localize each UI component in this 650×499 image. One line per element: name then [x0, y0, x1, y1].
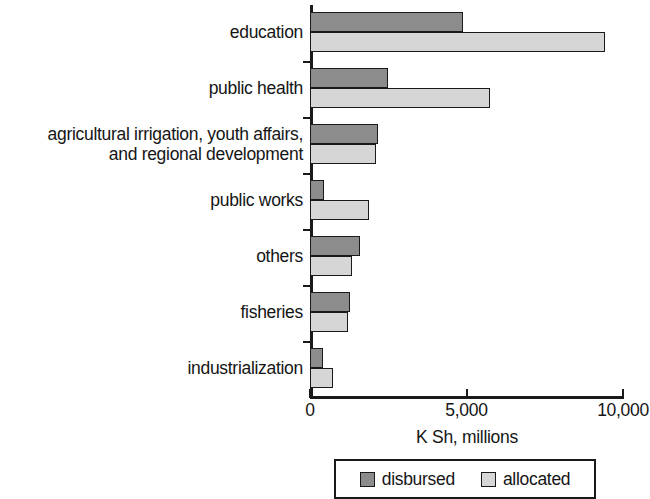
x-axis-tick: [622, 389, 624, 398]
bar-disbursed: [310, 236, 360, 256]
bar-disbursed: [310, 292, 350, 312]
category-label: public health: [0, 78, 312, 98]
legend-item-disbursed: disbursed: [360, 469, 455, 490]
bar-disbursed: [310, 180, 324, 200]
bar-disbursed: [310, 12, 463, 32]
bar-allocated: [310, 368, 333, 388]
bar-group: [310, 285, 623, 341]
bar-group: [310, 229, 623, 285]
bar-allocated: [310, 256, 352, 276]
legend-swatch-allocated-icon: [481, 472, 496, 487]
x-axis-tick-label: 0: [305, 400, 314, 421]
y-axis-tick: [303, 61, 311, 63]
bar-group: [310, 5, 623, 61]
y-axis-tick: [303, 341, 311, 343]
bar-group: [310, 61, 623, 117]
category-label: public works: [0, 190, 312, 210]
bar-allocated: [310, 312, 348, 332]
bar-allocated: [310, 144, 376, 164]
category-label: education: [0, 22, 312, 42]
bar-allocated: [310, 32, 605, 52]
x-axis-tick-label: 10,000: [597, 400, 649, 421]
x-axis-tick: [309, 389, 311, 398]
bar-disbursed: [310, 124, 378, 144]
category-label: others: [0, 246, 312, 266]
x-axis-tick-label: 5,000: [445, 400, 487, 421]
x-axis-tick: [466, 389, 468, 398]
y-axis-tick: [303, 117, 311, 119]
category-label: industrialization: [0, 358, 312, 378]
legend-label-disbursed: disbursed: [382, 469, 455, 490]
x-axis-title: K Sh, millions: [310, 427, 624, 448]
bar-allocated: [310, 200, 369, 220]
bar-disbursed: [310, 68, 388, 88]
category-label: fisheries: [0, 302, 312, 322]
y-axis-tick: [303, 229, 311, 231]
bar-group: [310, 173, 623, 229]
plot-area: [310, 5, 623, 397]
bar-group: [310, 117, 623, 173]
legend-item-allocated: allocated: [481, 469, 570, 490]
legend-swatch-disbursed-icon: [360, 472, 375, 487]
legend-label-allocated: allocated: [503, 469, 570, 490]
chart-legend: disbursed allocated: [334, 459, 596, 499]
y-axis-tick: [303, 285, 311, 287]
y-axis-tick: [303, 173, 311, 175]
bar-allocated: [310, 88, 490, 108]
category-label: agricultural irrigation, youth affairs,a…: [0, 124, 312, 164]
